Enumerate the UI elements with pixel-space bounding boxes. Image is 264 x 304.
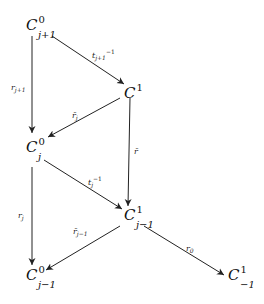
node-base: C bbox=[26, 16, 37, 34]
node-base: C bbox=[26, 138, 37, 156]
node-c0-jp1: C0j+1 bbox=[26, 18, 45, 33]
label-sub: 0 bbox=[190, 247, 194, 254]
label-t-jp1-inv: tj+1−1 bbox=[92, 52, 115, 60]
label-sub: j bbox=[76, 114, 78, 121]
node-sub: j−1 bbox=[136, 220, 154, 230]
label-sub: j bbox=[91, 181, 93, 188]
node-base: C bbox=[124, 206, 135, 224]
label-sup: −1 bbox=[106, 48, 115, 55]
node-sup: 1 bbox=[240, 264, 246, 275]
arrow-rbar-j bbox=[48, 98, 120, 137]
label-rbar-j: r̄j bbox=[72, 112, 78, 120]
node-base: C bbox=[124, 84, 135, 102]
node-sub: j−1 bbox=[38, 280, 56, 290]
node-sup: 0 bbox=[38, 136, 44, 147]
label-sub: j+1 bbox=[95, 54, 106, 61]
node-sup: 0 bbox=[38, 14, 44, 25]
label-base: r̄ bbox=[134, 147, 138, 156]
node-c1: C1 bbox=[124, 86, 143, 101]
node-sup: 0 bbox=[38, 264, 44, 275]
node-c0-jm1: C0j−1 bbox=[26, 268, 45, 283]
node-sub: j+1 bbox=[38, 30, 56, 40]
node-sub: −1 bbox=[240, 280, 255, 290]
node-sup: 1 bbox=[136, 204, 142, 215]
node-base: C bbox=[228, 266, 239, 284]
arrow-rbar bbox=[128, 98, 130, 206]
label-sup: −1 bbox=[93, 175, 102, 182]
label-r-j: rj bbox=[18, 212, 24, 220]
label-r-jp1: rj+1 bbox=[11, 84, 26, 92]
label-sub: j bbox=[22, 214, 24, 221]
node-c0-j: C0j bbox=[26, 140, 45, 155]
node-sub: j bbox=[38, 152, 41, 162]
node-c1-jm1: C1j−1 bbox=[124, 208, 143, 223]
node-sup: 1 bbox=[136, 82, 142, 93]
label-t-j-inv: tj−1 bbox=[88, 179, 102, 187]
label-rbar-jm1: r̄j−1 bbox=[73, 228, 88, 236]
arrow-r-0 bbox=[144, 226, 224, 275]
node-c1-m1: C1−1 bbox=[228, 268, 247, 283]
label-r-0: r0 bbox=[186, 245, 194, 253]
label-rbar: r̄ bbox=[134, 148, 138, 156]
node-base: C bbox=[26, 266, 37, 284]
label-sub: j−1 bbox=[77, 230, 88, 237]
arrow-t-jp1-inv bbox=[52, 36, 124, 84]
label-sub: j+1 bbox=[15, 86, 26, 93]
arrow-t-j-inv bbox=[44, 160, 122, 209]
